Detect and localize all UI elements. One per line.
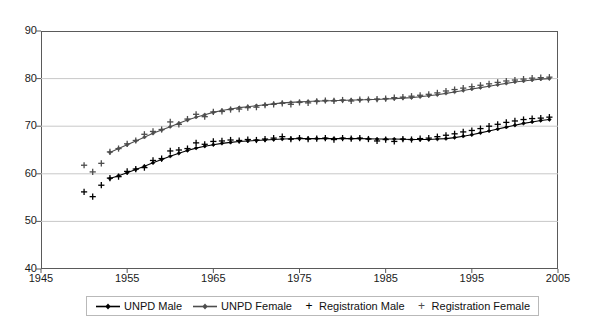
line-diamond-marker-icon	[192, 301, 218, 312]
legend-item[interactable]: UNPD Female	[192, 301, 292, 312]
plus-marker-icon: +	[302, 301, 316, 312]
line-diamond-marker-icon	[95, 301, 121, 312]
legend-item[interactable]: +Registration Female	[415, 301, 530, 312]
x-tick-label: 1985	[356, 272, 416, 284]
life-expectancy-chart: 405060708090 194519551965197519851995200…	[0, 0, 599, 328]
x-tick-label: 2005	[528, 272, 588, 284]
x-tick-label: 1955	[97, 272, 157, 284]
plus-marker-icon: +	[415, 301, 429, 312]
y-tick-label: 70	[3, 120, 37, 131]
legend-item[interactable]: +Registration Male	[302, 301, 405, 312]
y-tick-label: 50	[3, 215, 37, 226]
legend-label: UNPD Male	[124, 301, 182, 312]
y-tick-label: 60	[3, 168, 37, 179]
x-tick-label: 1945	[11, 272, 71, 284]
legend-label: Registration Male	[319, 301, 405, 312]
plot-area	[41, 31, 558, 269]
y-tick-label: 90	[3, 25, 37, 36]
x-tick-label: 1995	[442, 272, 502, 284]
y-tick-label: 80	[3, 73, 37, 84]
legend-label: UNPD Female	[221, 301, 292, 312]
legend-label: Registration Female	[432, 301, 530, 312]
x-tick-label: 1965	[183, 272, 243, 284]
legend-item[interactable]: UNPD Male	[95, 301, 182, 312]
chart-legend: UNPD MaleUNPD Female+Registration Male+R…	[86, 296, 539, 316]
x-tick-label: 1975	[270, 272, 330, 284]
